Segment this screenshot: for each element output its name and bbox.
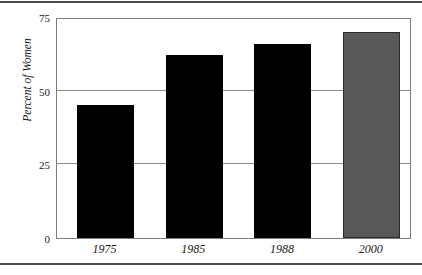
y-tick-label-50: 50 [2,86,50,97]
y-axis-tick-labels: 0255075 [0,18,50,239]
bar-2000 [343,32,400,238]
bar-fill [166,55,223,238]
bar-fill [77,105,134,238]
x-tick-label-1988: 1988 [253,243,310,255]
x-tick-label-1985: 1985 [165,243,222,255]
plot-area [56,18,411,239]
top-horizontal-rule [0,1,422,3]
bottom-horizontal-rule [0,263,422,265]
y-tick-label-75: 75 [2,13,50,24]
bar-fill [254,44,311,238]
bar-1975 [77,105,134,238]
bar-chart-figure: Percent of Women 0255075 197519851988200… [0,0,422,275]
y-tick-label-0: 0 [2,234,50,245]
x-tick-label-2000: 2000 [342,243,399,255]
x-tick-label-1975: 1975 [76,243,133,255]
x-axis-tick-labels: 1975198519882000 [56,243,411,261]
y-tick-label-25: 25 [2,160,50,171]
bar-fill [343,32,400,238]
bar-1988 [254,44,311,238]
bar-1985 [166,55,223,238]
